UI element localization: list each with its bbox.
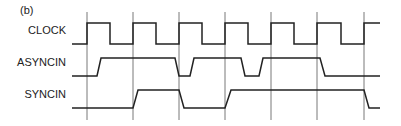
waveform-asyncin — [72, 58, 380, 76]
signal-label-asyncin: ASYNCIN — [17, 56, 66, 68]
signal-label-syncin: SYNCIN — [24, 88, 66, 100]
timing-diagram: (b) CLOCKASYNCINSYNCIN — [0, 0, 401, 126]
signal-label-clock: CLOCK — [28, 24, 67, 36]
waveform-clock — [72, 23, 380, 44]
panel-label: (b) — [20, 4, 33, 16]
waveform-syncin — [72, 90, 380, 108]
signal-labels: CLOCKASYNCINSYNCIN — [17, 24, 67, 100]
signal-waveforms — [72, 23, 380, 108]
